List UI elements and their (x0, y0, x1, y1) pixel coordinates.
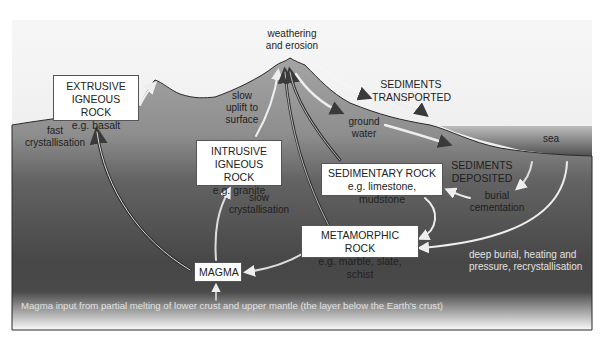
magma-box: MAGMA (194, 262, 242, 282)
intrusive-igneous-rock-box: INTRUSIVE IGNEOUS ROCK e.g. granite (196, 140, 282, 186)
burial-line2: cementation (465, 202, 529, 214)
deep-burial-line1: deep burial, heating and (469, 249, 582, 261)
sea-label: sea (536, 133, 566, 145)
weathering-line1: weathering (258, 28, 326, 40)
magma-input-text: Magma input from partial melting of lowe… (21, 300, 443, 311)
deep-burial-label: deep burial, heating and pressure, recry… (469, 249, 582, 273)
sediments-deposited-label: SEDIMENTS DEPOSITED (450, 159, 514, 185)
slow-uplift-line3: surface (222, 114, 262, 126)
sedimentary-rock-box: SEDIMENTARY ROCK e.g. limestone, mudston… (321, 163, 443, 196)
weathering-erosion-label: weathering and erosion (258, 28, 326, 52)
magma-title: MAGMA (199, 266, 237, 279)
metamorphic-title: METAMORPHIC ROCK (306, 229, 414, 255)
sediments-transported-label: SEDIMENTS TRANSPORTED (372, 78, 450, 104)
burial-cementation-label: burial cementation (465, 190, 529, 214)
slow-cryst-line1: slow (226, 192, 292, 204)
extrusive-title-line1: EXTRUSIVE (58, 80, 134, 93)
sedimentary-title: SEDIMENTARY ROCK (326, 167, 438, 180)
metamorphic-rock-box: METAMORPHIC ROCK e.g. marble, slate, sch… (301, 225, 419, 258)
slow-crystallisation-label: slow crystallisation (226, 192, 292, 216)
metamorphic-example: e.g. marble, slate, schist (306, 255, 414, 281)
intrusive-title-line2: IGNEOUS ROCK (201, 158, 277, 184)
sedimentary-example: e.g. limestone, mudstone (326, 180, 438, 206)
slow-uplift-label: slow uplift to surface (222, 90, 262, 126)
sediments-transported-line1: SEDIMENTS (372, 78, 450, 91)
slow-uplift-line2: uplift to (222, 102, 262, 114)
magma-input-label: Magma input from partial melting of lowe… (21, 300, 443, 312)
deep-burial-line2: pressure, recrystallisation (469, 261, 582, 273)
ground-water-line2: water (344, 128, 384, 140)
intrusive-title-line1: INTRUSIVE (201, 145, 277, 158)
sediments-deposited-line2: DEPOSITED (450, 172, 514, 185)
fast-cryst-line2: crystallisation (22, 137, 88, 149)
extrusive-igneous-rock-box: EXTRUSIVE IGNEOUS ROCK e.g. basalt (53, 75, 139, 121)
weathering-line2: and erosion (258, 40, 326, 52)
ground-water-line1: ground (344, 116, 384, 128)
extrusive-title-line2: IGNEOUS ROCK (58, 93, 134, 119)
burial-line1: burial (465, 190, 529, 202)
fast-cryst-line1: fast (22, 125, 88, 137)
slow-uplift-line1: slow (222, 90, 262, 102)
sediments-deposited-line1: SEDIMENTS (450, 159, 514, 172)
slow-cryst-line2: crystallisation (226, 204, 292, 216)
rock-cycle-diagram: EXTRUSIVE IGNEOUS ROCK e.g. basalt INTRU… (0, 0, 604, 342)
sediments-transported-line2: TRANSPORTED (372, 91, 450, 104)
ground-water-label: ground water (344, 116, 384, 140)
fast-crystallisation-label: fast crystallisation (22, 125, 88, 149)
sea-text: sea (543, 133, 559, 144)
